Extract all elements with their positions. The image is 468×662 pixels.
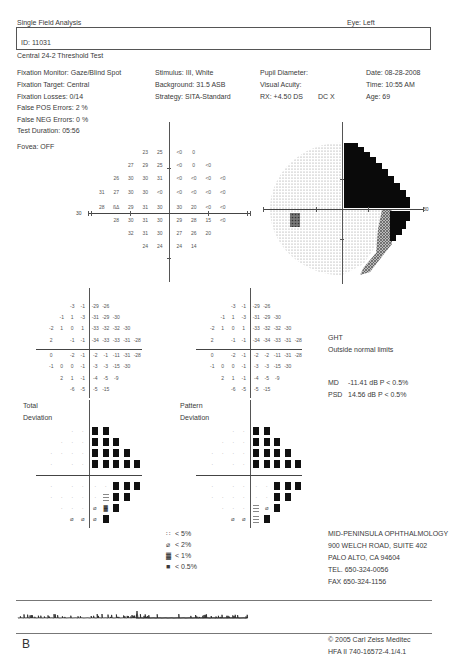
ppm-normal-icon: ·: [230, 438, 236, 446]
pattern-deviation-value: -9: [270, 375, 284, 381]
tpm-normal-icon: ·: [80, 482, 86, 490]
tpm-normal-icon: ·: [69, 460, 75, 468]
clinic-tel: TEL. 650-324-0056: [328, 566, 388, 574]
pattern-deviation-value: -28: [291, 352, 305, 358]
grayscale-image: [0, 0, 468, 300]
legend-1pct-label: < 1%: [175, 552, 191, 560]
total-deviation-value: -28: [130, 352, 144, 358]
legend-2pct-icon: ⌀: [166, 541, 170, 549]
ppm-normal-icon: ·: [241, 449, 247, 457]
tpm-p05-icon: [124, 460, 130, 468]
ppm-normal-icon: ·: [230, 460, 236, 468]
ppm-normal-icon: ·: [230, 449, 236, 457]
ppm-p05-icon: [285, 460, 291, 468]
ppm-normal-icon: ·: [241, 460, 247, 468]
tpm-normal-icon: ·: [69, 438, 75, 446]
ppm-normal-icon: ·: [220, 438, 226, 446]
grayscale-horizontal-axis: [263, 209, 423, 210]
pattern-deviation-label-2: Deviation: [180, 414, 209, 422]
tpm-normal-icon: ·: [48, 493, 54, 501]
pattern-deviation-value: -30: [281, 325, 295, 331]
tpm-normal-icon: ·: [59, 449, 65, 457]
ght-title: GHT: [328, 334, 343, 342]
total-deviation-value: -30: [120, 325, 134, 331]
pattern-deviation-value: -28: [291, 337, 305, 343]
tpm-normal-icon: ·: [80, 504, 86, 512]
tpm-normal-icon: ·: [92, 493, 98, 501]
total-deviation-value: -28: [130, 337, 144, 343]
clinic-name: MID-PENINSULA OPHTHALMOLOGY: [328, 530, 448, 538]
tpm-p05-icon: [92, 438, 98, 446]
tpm-normal-icon: ·: [59, 493, 65, 501]
tpm-normal-icon: ·: [48, 482, 54, 490]
ppm-p05-icon: [285, 482, 291, 490]
tpm-normal-icon: ·: [92, 482, 98, 490]
legend-1pct-icon: ▓: [166, 552, 171, 560]
total-deviation-value: -30: [120, 363, 134, 369]
ppm-normal-icon: ·: [209, 482, 215, 490]
ppm-p05-icon: [285, 493, 291, 501]
tpm-normal-icon: ·: [69, 427, 75, 435]
pattern-deviation-value: 0: [205, 352, 219, 358]
md-value: -11.41 dB P < 0.5%: [348, 379, 408, 387]
tpm-p2-icon: ⌀: [92, 504, 98, 512]
grayscale-vertical-axis: [342, 122, 343, 284]
tpm-p05-icon: [92, 427, 98, 435]
panel-letter: B: [22, 637, 30, 651]
ppm-vertical-axis: [250, 400, 251, 528]
pattern-deviation-value: -30: [281, 363, 295, 369]
ppm-p5-icon: [253, 504, 259, 512]
ppm-p05-icon: [264, 515, 270, 523]
ppm-p05-icon: [264, 449, 270, 457]
tpm-horizontal-axis: [36, 475, 142, 476]
td-horizontal-axis: [36, 349, 142, 350]
tpm-p05-icon: [103, 515, 109, 523]
psd-value: 14.56 dB P < 0.5%: [348, 391, 406, 399]
ppm-normal-icon: ·: [209, 493, 215, 501]
total-deviation-value: 2: [44, 337, 58, 343]
total-deviation-label-2: Deviation: [23, 414, 52, 422]
tpm-normal-icon: ·: [69, 493, 75, 501]
ppm-normal-icon: ·: [220, 449, 226, 457]
psd-label: PSD: [328, 391, 342, 399]
ppm-p05-icon: [264, 427, 270, 435]
clinic-city: PALO ALTO, CA 94604: [328, 554, 400, 562]
tpm-p05-icon: [103, 427, 109, 435]
ppm-p05-icon: [264, 460, 270, 468]
ppm-p05-icon: [274, 493, 280, 501]
tpm-vertical-axis: [89, 400, 90, 528]
axis-tick: [340, 239, 344, 240]
legend-2pct-label: < 2%: [175, 541, 191, 549]
axis-tick: [316, 207, 317, 212]
tpm-normal-icon: ·: [103, 482, 109, 490]
ppm-p05-icon: [295, 460, 301, 468]
ppm-normal-icon: ·: [253, 482, 259, 490]
tpm-normal-icon: ·: [48, 460, 54, 468]
tpm-p05-icon: [124, 482, 130, 490]
tpm-normal-icon: ·: [69, 504, 75, 512]
ppm-normal-icon: ·: [264, 482, 270, 490]
pattern-deviation-value: -26: [260, 303, 274, 309]
tpm-p1-icon: ▓: [103, 504, 109, 512]
tpm-p05-icon: [92, 460, 98, 468]
ppm-horizontal-axis: [196, 475, 302, 476]
ppm-normal-icon: ·: [220, 504, 226, 512]
tpm-normal-icon: ·: [80, 460, 86, 468]
legend-5pct-label: < 5%: [175, 530, 191, 538]
tpm-p2-icon: ⌀: [92, 515, 98, 523]
axis-end-tick: [263, 207, 264, 212]
clinic-fax: FAX 650-324-1156: [328, 578, 386, 586]
tpm-p05-icon: [113, 449, 119, 457]
pattern-deviation-label: Pattern: [180, 402, 203, 410]
pattern-deviation-value: 2: [205, 337, 219, 343]
clinic-address: 900 WELCH ROAD, SUITE 402: [328, 542, 427, 550]
tpm-p05-icon: [113, 460, 119, 468]
ppm-normal-icon: ·: [241, 493, 247, 501]
tpm-normal-icon: ·: [80, 493, 86, 501]
total-deviation-value: -9: [109, 375, 123, 381]
axis-tick: [368, 207, 369, 212]
total-deviation-label: Total: [23, 402, 38, 410]
ppm-p2-icon: ⌀: [241, 515, 247, 523]
ppm-p05-icon: [264, 438, 270, 446]
ppm-p05-icon: [274, 438, 280, 446]
